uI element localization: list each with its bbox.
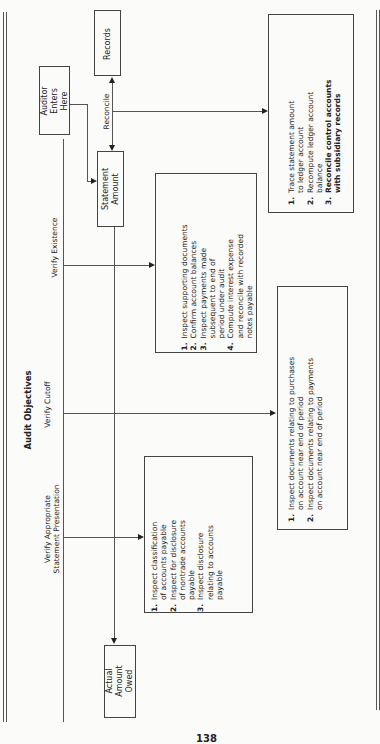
reconcile-label: Reconcile [102,82,111,142]
records-label: Records [103,11,113,77]
reconcile-arrow-line [112,111,262,112]
procedure-item: 4.Compute interest expense and reconcile… [226,176,254,351]
reconcile-procedures-list: 1.Trace statement amount to ledger accou… [287,25,327,205]
existence-procedures-list: 1.Inspect supporting documents 2.Confirm… [180,176,228,351]
statement-to-actual-line [114,227,115,638]
verify-existence-label: Verify Existence [50,208,59,288]
records-node: Records [94,10,121,76]
left-border-outer [3,12,4,722]
presentation-procedures-list: 1.Inspect classification of accounts pay… [150,492,230,612]
actual-amount-owed-label: Actual Amount Owed [105,646,135,716]
auditor-connector-v [87,104,88,181]
left-border-inner [6,12,7,722]
arrow-to-actual-owed [111,638,117,644]
procedure-item: 3.Inspect disclosure relating to account… [196,492,224,612]
statement-amount-node: Statement Amount [97,151,124,227]
verify-presentation-label: Verify Appropriate Statement Presentatio… [43,474,61,584]
procedure-item: 1.Inspect classification of accounts pay… [150,492,169,612]
cutoff-procedures-box: 1.Inspect documents relating to purchase… [277,286,348,530]
arrow-to-cutoff-box [270,410,276,416]
objectives-trunk-line [63,139,64,722]
procedure-item: 2.Recompute ledger account balance [306,25,325,205]
procedure-item: 2.Inspect documents relating to payments… [306,292,325,522]
verify-cutoff-label: Verify Cutoff [43,375,52,435]
reconcile-procedures-box: 1.Trace statement amount to ledger accou… [268,14,354,213]
cutoff-procedures-list: 1.Inspect documents relating to purchase… [287,292,327,522]
arrow-to-statement-down [109,145,115,151]
diagram-title: Audit Objectives [23,370,33,450]
reconcile-connector [112,82,113,145]
right-border-outer [376,10,377,710]
procedure-item: 3.Inspect payments made subsequent to en… [198,176,226,351]
procedure-item: 2.Inspect for disclosure of nontrade acc… [169,492,197,612]
presentation-arrow-line [63,537,138,538]
statement-amount-label: Statement Amount [101,151,121,227]
procedure-item: 3.Reconcile control accounts with subsid… [324,25,343,205]
presentation-procedures-box: 1.Inspect classification of accounts pay… [144,456,253,613]
auditor-enters-node: Auditor Enters Here [39,66,70,135]
existence-procedures-box: 1.Inspect supporting documents 2.Confirm… [155,173,257,353]
auditor-connector-h [70,104,87,105]
procedure-item: 1.Trace statement amount to ledger accou… [287,25,306,205]
auditor-enters-label: Auditor Enters Here [40,66,70,136]
procedure-item: 1.Inspect documents relating to purchase… [287,292,306,522]
procedure-item: 1.Inspect supporting documents [180,176,189,351]
actual-amount-owed-node: Actual Amount Owed [104,645,136,718]
arrow-to-statement [91,178,97,184]
cutoff-arrow-line [63,413,270,414]
page-number: 138 [196,733,217,744]
existence-arrow-line [63,265,149,266]
procedure-item: 2.Confirm account balances [189,176,198,351]
